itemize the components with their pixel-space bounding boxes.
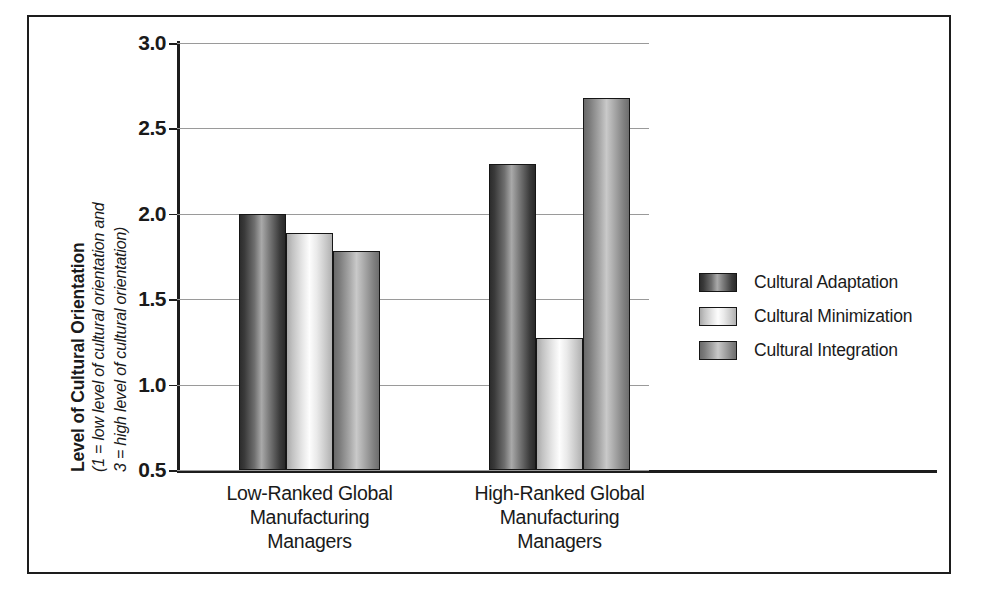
y-axis-tick xyxy=(169,385,177,387)
y-axis-tick xyxy=(169,128,177,130)
legend-label: Cultural Minimization xyxy=(754,306,912,327)
legend-item[interactable]: Cultural Integration xyxy=(699,333,949,367)
figure-frame: Level of Cultural Orientation (1 = low l… xyxy=(27,15,951,574)
y-axis-tick-label: 2.0 xyxy=(138,202,166,226)
y-axis-tick xyxy=(169,43,177,45)
y-axis-subtitle-line-2: 3 = high level of cultural orientation) xyxy=(113,227,130,472)
legend-label: Cultural Adaptation xyxy=(754,272,898,293)
y-axis-tick-label: 3.0 xyxy=(138,31,166,55)
y-axis-tick-label: 0.5 xyxy=(138,458,166,482)
gridline xyxy=(177,43,649,44)
bar-minimization xyxy=(536,338,583,470)
y-axis-tick-label: 2.5 xyxy=(138,116,166,140)
legend-item[interactable]: Cultural Minimization xyxy=(699,299,949,333)
category-label: High-Ranked Global Manufacturing Manager… xyxy=(445,482,675,553)
legend-label: Cultural Integration xyxy=(754,340,898,361)
bar-integration xyxy=(583,98,630,470)
y-axis-tick xyxy=(169,214,177,216)
plot-area: 3.02.52.01.51.00.5 Low-Ranked Global Man… xyxy=(177,43,649,470)
y-axis-tick-label: 1.5 xyxy=(138,287,166,311)
gridline xyxy=(177,470,649,471)
bar-adaptation xyxy=(489,164,536,470)
category-label: Low-Ranked Global Manufacturing Managers xyxy=(195,482,425,553)
bar-adaptation xyxy=(239,214,286,470)
gridline xyxy=(177,128,649,129)
bar-minimization xyxy=(286,233,333,470)
legend-swatch-minimization xyxy=(699,307,737,326)
y-axis-subtitle-line-1: (1 = low level of cultural orientation a… xyxy=(91,202,108,472)
y-axis-tick xyxy=(169,470,177,472)
y-axis-tick-label: 1.0 xyxy=(138,373,166,397)
y-axis-title-group: Level of Cultural Orientation (1 = low l… xyxy=(29,17,145,576)
bar-integration xyxy=(333,251,380,470)
y-axis-title: Level of Cultural Orientation xyxy=(69,242,87,472)
y-axis-tick xyxy=(169,299,177,301)
legend: Cultural AdaptationCultural Minimization… xyxy=(699,265,949,367)
legend-swatch-integration xyxy=(699,341,737,360)
y-axis-line xyxy=(177,41,180,472)
legend-swatch-adaptation xyxy=(699,273,737,292)
legend-item[interactable]: Cultural Adaptation xyxy=(699,265,949,299)
